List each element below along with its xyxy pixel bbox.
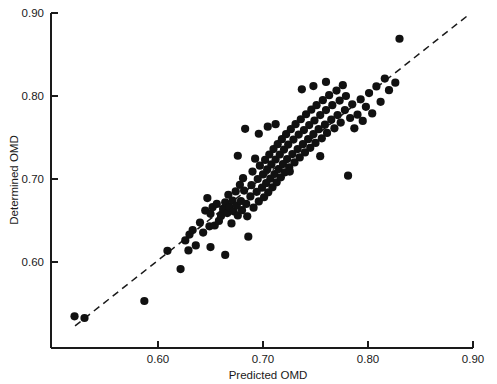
data-point xyxy=(333,111,341,119)
data-point xyxy=(381,74,389,82)
y-tick-label-070: 0.70 xyxy=(22,173,44,185)
data-point xyxy=(251,155,259,163)
data-point xyxy=(350,124,358,132)
x-axis-title: Predicted OMD xyxy=(229,369,308,381)
x-tick-label-060: 0.60 xyxy=(147,353,169,365)
data-point xyxy=(323,129,331,137)
data-point xyxy=(316,152,324,160)
data-point xyxy=(199,228,207,236)
data-point xyxy=(248,167,256,175)
data-point xyxy=(206,243,214,251)
data-point xyxy=(255,130,263,138)
data-point xyxy=(163,247,171,255)
data-point xyxy=(337,118,345,126)
data-point xyxy=(332,87,340,95)
data-point xyxy=(344,172,352,180)
data-point xyxy=(184,246,192,254)
y-tick-label-060: 0.60 xyxy=(22,256,44,268)
x-tick-label-090: 0.90 xyxy=(462,353,484,365)
data-point xyxy=(362,103,370,111)
data-point xyxy=(339,81,347,89)
data-point xyxy=(247,181,255,189)
data-point xyxy=(221,251,229,259)
data-point xyxy=(176,265,184,273)
data-point xyxy=(203,194,211,202)
data-point xyxy=(377,98,385,106)
data-point xyxy=(368,109,376,117)
data-point xyxy=(242,200,250,208)
data-point xyxy=(298,85,306,93)
data-point xyxy=(372,82,380,90)
x-axis-tick-labels: 0.60 0.70 0.80 0.90 xyxy=(147,353,484,365)
data-point xyxy=(341,106,349,114)
data-point xyxy=(244,233,252,241)
data-point xyxy=(342,92,350,100)
data-point xyxy=(309,82,317,90)
data-point xyxy=(227,219,235,227)
y-tick-label-080: 0.80 xyxy=(22,90,44,102)
y-tick-label-090: 0.90 xyxy=(22,7,44,19)
y-axis-ticks xyxy=(51,13,58,262)
series-0 xyxy=(70,35,403,322)
data-point xyxy=(239,174,247,182)
data-point xyxy=(353,111,361,119)
data-point xyxy=(264,123,272,131)
data-point xyxy=(359,117,367,125)
plot-svg: 0.90 0.80 0.70 0.60 0.60 0.70 0.80 0.90 … xyxy=(0,0,497,384)
data-point xyxy=(241,125,249,133)
data-point xyxy=(325,91,333,99)
data-point xyxy=(328,101,336,109)
identity-reference-line xyxy=(75,15,468,325)
x-tick-label-070: 0.70 xyxy=(252,353,274,365)
data-point xyxy=(322,78,330,86)
y-axis-tick-labels: 0.90 0.80 0.70 0.60 xyxy=(22,7,44,268)
data-point xyxy=(395,35,403,43)
data-point xyxy=(140,297,148,305)
data-point xyxy=(391,79,399,87)
data-point xyxy=(234,152,242,160)
data-point xyxy=(70,312,78,320)
data-point xyxy=(189,226,197,234)
data-point xyxy=(196,218,204,226)
data-point xyxy=(357,95,365,103)
data-point xyxy=(80,314,88,322)
data-point xyxy=(385,86,393,94)
x-tick-label-080: 0.80 xyxy=(357,353,379,365)
data-point xyxy=(348,100,356,108)
scatter-chart: 0.90 0.80 0.70 0.60 0.60 0.70 0.80 0.90 … xyxy=(0,0,497,384)
data-point xyxy=(192,241,200,249)
data-point xyxy=(243,212,251,220)
x-axis-ticks xyxy=(158,341,473,348)
data-point xyxy=(240,187,248,195)
data-point xyxy=(249,204,257,212)
data-point xyxy=(330,124,338,132)
data-point xyxy=(272,120,280,128)
data-point xyxy=(346,114,354,122)
data-point xyxy=(365,89,373,97)
data-point xyxy=(286,167,294,175)
y-axis-title: Determined OMD xyxy=(8,135,20,224)
